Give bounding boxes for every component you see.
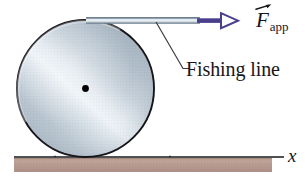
force-label: F app	[256, 10, 289, 33]
spool-center-dot	[82, 85, 89, 92]
force-symbol: F	[256, 10, 270, 31]
fishing-line-label: Fishing line	[186, 59, 280, 79]
fishing-line-leader	[156, 22, 190, 69]
vector-arrow-icon	[255, 3, 272, 12]
ground-surface	[14, 158, 272, 172]
force-arrow-icon	[197, 13, 238, 28]
force-subscript: app	[270, 19, 289, 34]
physics-figure: F app Fishing line x	[0, 0, 305, 177]
fishing-line-band	[86, 18, 200, 24]
x-axis-label: x	[288, 146, 296, 165]
